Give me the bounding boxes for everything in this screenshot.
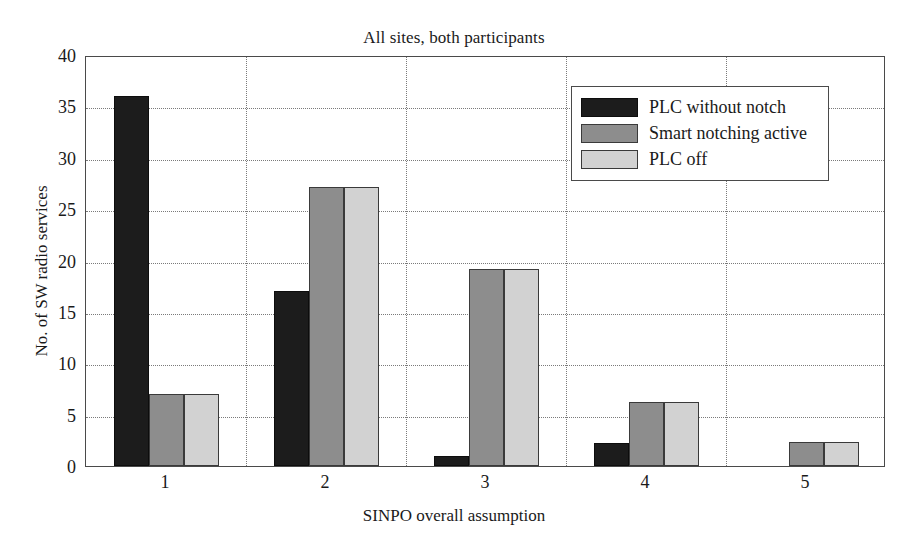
bar xyxy=(309,187,344,466)
x-axis-tick-label: 4 xyxy=(615,472,675,493)
gridline-horizontal xyxy=(86,211,884,212)
y-axis-tick-label: 20 xyxy=(32,253,76,271)
y-axis-tick-label: 0 xyxy=(32,458,76,476)
legend-label: PLC off xyxy=(649,150,707,169)
bar xyxy=(149,394,184,466)
y-axis-tick-label: 10 xyxy=(32,355,76,373)
bar xyxy=(274,291,309,466)
bar xyxy=(629,402,664,466)
bar xyxy=(594,443,629,466)
legend-color-swatch xyxy=(581,124,638,143)
x-axis-tick-label: 1 xyxy=(135,472,195,493)
y-axis-tick-label: 40 xyxy=(32,47,76,65)
y-axis-tick-label: 30 xyxy=(32,150,76,168)
x-axis-label: SINPO overall assumption xyxy=(0,506,908,526)
gridline-horizontal xyxy=(86,263,884,264)
x-axis-tick-label: 5 xyxy=(775,472,835,493)
x-axis-tick-label: 2 xyxy=(295,472,355,493)
y-axis-tick-label: 35 xyxy=(32,98,76,116)
y-axis-tick-labels: 0510152025303540 xyxy=(14,0,76,546)
bar-chart-figure: All sites, both participants No. of SW r… xyxy=(0,0,908,546)
bar xyxy=(434,456,469,466)
gridline-vertical xyxy=(566,57,567,466)
gridline-vertical xyxy=(406,57,407,466)
gridline-vertical xyxy=(246,57,247,466)
chart-legend: PLC without notchSmart notching activePL… xyxy=(571,86,829,181)
legend-label: PLC without notch xyxy=(649,98,786,117)
bar xyxy=(824,442,859,466)
bar xyxy=(344,187,379,466)
x-axis-tick-label: 3 xyxy=(455,472,515,493)
bar xyxy=(184,394,219,466)
legend-color-swatch xyxy=(581,150,638,169)
y-axis-tick-label: 5 xyxy=(32,407,76,425)
bar xyxy=(789,442,824,466)
legend-item: PLC without notch xyxy=(581,94,819,120)
bar xyxy=(469,269,504,466)
legend-item: PLC off xyxy=(581,146,819,172)
bar xyxy=(114,96,149,466)
y-axis-tick-label: 15 xyxy=(32,304,76,322)
legend-label: Smart notching active xyxy=(649,124,807,143)
bar xyxy=(504,269,539,466)
bar xyxy=(664,402,699,466)
legend-color-swatch xyxy=(581,98,638,117)
chart-title: All sites, both participants xyxy=(0,28,908,48)
legend-item: Smart notching active xyxy=(581,120,819,146)
y-axis-tick-label: 25 xyxy=(32,201,76,219)
